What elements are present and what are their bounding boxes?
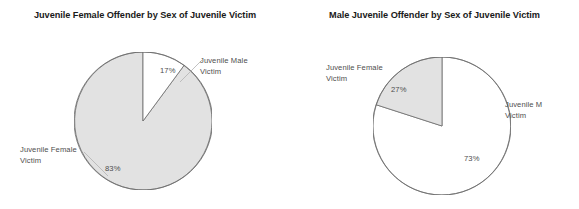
chart-panel-juvenile-female-offender: Juvenile Female Offender by Sex of Juven… bbox=[0, 0, 290, 209]
chart-title-left: Juvenile Female Offender by Sex of Juven… bbox=[25, 9, 265, 22]
pie-left-label-male-victim: Juvenile Male Victim bbox=[200, 56, 248, 77]
pie-right-percent-male-victim: 73% bbox=[464, 154, 480, 163]
pie-left-percent-male-victim: 17% bbox=[160, 66, 176, 75]
pie-right-label-male-victim: Juvenile M Victim bbox=[505, 100, 542, 121]
chart-title-right: Male Juvenile Offender by Sex of Juvenil… bbox=[310, 9, 560, 22]
pie-left bbox=[74, 52, 212, 190]
pie-left-label-female-victim: Juvenile Female Victim bbox=[20, 145, 77, 166]
pie-right-percent-female-victim: 27% bbox=[391, 85, 407, 94]
pie-left-svg bbox=[74, 52, 212, 190]
pie-right-svg bbox=[373, 57, 511, 195]
pie-right-label-female-victim: Juvenile Female Victim bbox=[326, 63, 383, 84]
chart-panel-male-juvenile-offender: Male Juvenile Offender by Sex of Juvenil… bbox=[290, 0, 579, 209]
pie-right bbox=[373, 57, 511, 195]
pie-left-percent-female-victim: 83% bbox=[105, 164, 121, 173]
pie-chart-figure: Juvenile Female Offender by Sex of Juven… bbox=[0, 0, 579, 209]
